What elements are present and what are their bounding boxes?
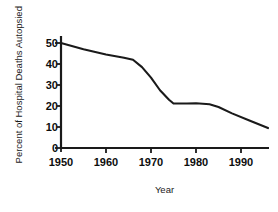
x-tick-label: 1980	[174, 157, 218, 168]
x-tick-label: 1970	[129, 157, 173, 168]
x-axis-title: Year	[61, 184, 268, 195]
chart-figure: Percent of Hospital Deaths Autopsied 50 …	[0, 0, 278, 212]
x-tick-label-group: 1950 1960 1970 1980 1990	[0, 0, 278, 212]
x-tick-label: 1950	[39, 157, 83, 168]
x-tick-label: 1990	[219, 157, 263, 168]
x-tick-label: 1960	[84, 157, 128, 168]
